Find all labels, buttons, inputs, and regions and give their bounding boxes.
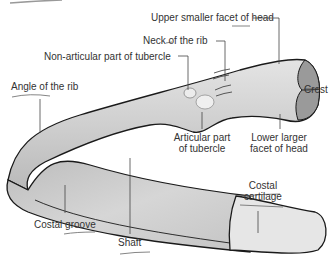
label-lower-facet: Lower larger facet of head xyxy=(244,132,314,154)
label-non-articular: Non-articular part of tubercle xyxy=(44,51,171,62)
label-shaft: Shaft xyxy=(118,237,141,248)
non-articular-tubercle xyxy=(184,88,196,98)
label-costal-groove: Costal groove xyxy=(34,219,96,230)
label-neck: Neck of the rib xyxy=(143,35,207,46)
label-articular-part: Articular part of tubercle xyxy=(167,132,237,154)
articular-tubercle xyxy=(196,95,214,109)
costal-cartilage xyxy=(229,196,326,253)
label-angle: Angle of the rib xyxy=(11,81,78,92)
label-costal-cartilage: Costal cartilage xyxy=(238,180,288,202)
rib-diagram: Upper smaller facet of head Neck of the … xyxy=(0,0,332,262)
corner-stroke xyxy=(10,0,62,3)
label-crest: Crest xyxy=(304,84,328,95)
label-upper-facet: Upper smaller facet of head xyxy=(151,12,274,23)
